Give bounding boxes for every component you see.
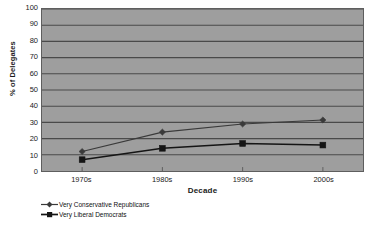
legend-entry: Very Conservative Republicans [40, 200, 240, 209]
y-tick-label: 10 [14, 152, 38, 160]
legend-marker [47, 212, 52, 217]
chart-legend: Very Conservative RepublicansVery Libera… [40, 200, 240, 220]
y-tick-label: 80 [14, 37, 38, 45]
data-point-marker [159, 145, 165, 151]
series-line-0 [82, 120, 323, 152]
data-point-marker [159, 129, 165, 135]
series-line-1 [82, 143, 323, 159]
y-tick-label: 60 [14, 70, 38, 78]
legend-label: Very Liberal Democrats [59, 210, 127, 219]
data-point-marker [240, 141, 246, 147]
y-tick-label: 20 [14, 135, 38, 143]
legend-entry: Very Liberal Democrats [40, 210, 240, 219]
square-marker-icon [40, 210, 59, 219]
x-tick-label: 1980s [132, 175, 192, 184]
y-tick-label: 90 [14, 20, 38, 28]
line-chart-figure: % of Delegates 1009080706050403020100 19… [0, 0, 374, 230]
x-tick-label: 2000s [294, 175, 354, 184]
y-tick-label: 0 [14, 168, 38, 176]
y-tick-label: 70 [14, 53, 38, 61]
x-tick-label: 1970s [51, 175, 111, 184]
y-tick-label: 40 [14, 102, 38, 110]
y-tick-label: 30 [14, 119, 38, 127]
data-point-marker [320, 142, 326, 148]
y-tick-label: 50 [14, 86, 38, 94]
y-axis-tick-labels: 1009080706050403020100 [14, 8, 38, 172]
plot-area [41, 8, 364, 172]
legend-marker [47, 202, 53, 208]
x-tick-label: 1990s [213, 175, 273, 184]
data-point-marker [79, 157, 85, 163]
y-tick-label: 100 [14, 4, 38, 12]
legend-label: Very Conservative Republicans [59, 200, 149, 209]
plot-svg [42, 9, 363, 171]
x-axis-title: Decade [41, 186, 364, 195]
data-point-marker [79, 148, 85, 154]
diamond-marker-icon [40, 200, 59, 209]
